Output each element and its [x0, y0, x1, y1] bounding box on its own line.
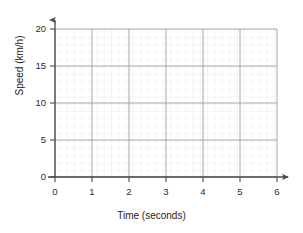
x-tick-label-2: 2 [126, 187, 131, 197]
speed-time-graph: 0 1 2 3 4 5 6 0 5 10 15 20 Time (seconds… [0, 0, 303, 233]
x-tick-label-0: 0 [52, 187, 57, 197]
x-tick-label-5: 5 [237, 187, 242, 197]
x-tick-label-4: 4 [200, 187, 205, 197]
y-tick-label-5: 5 [28, 135, 46, 145]
y-tick-label-10: 10 [28, 98, 46, 108]
x-tick-marks [55, 177, 277, 182]
x-tick-label-6: 6 [274, 187, 279, 197]
y-tick-label-15: 15 [28, 61, 46, 71]
x-tick-label-3: 3 [163, 187, 168, 197]
y-axis-title: Speed (km/h) [14, 11, 25, 121]
y-tick-marks [50, 29, 55, 177]
x-axis-title: Time (seconds) [0, 210, 303, 221]
x-tick-label-1: 1 [89, 187, 94, 197]
y-tick-label-20: 20 [28, 24, 46, 34]
plot-area [0, 0, 303, 233]
y-tick-label-0: 0 [28, 172, 46, 182]
